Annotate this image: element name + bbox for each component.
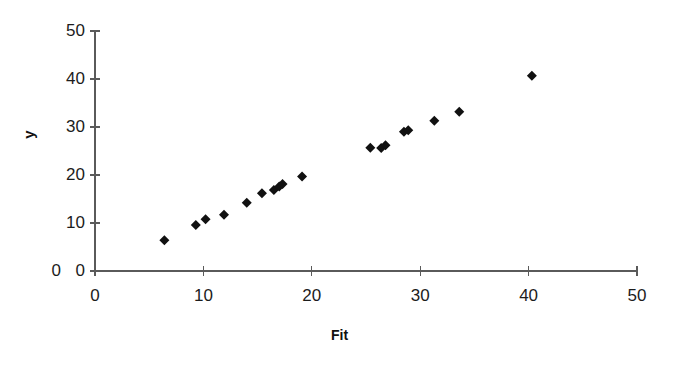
data-point-marker [257, 188, 267, 198]
x-tick-label: 50 [597, 287, 677, 304]
data-point-marker [365, 143, 375, 153]
y-tick-label: 20 [15, 166, 85, 183]
y-tick-label: 10 [15, 214, 85, 231]
data-point-marker [429, 116, 439, 126]
plot-area [0, 0, 679, 365]
x-tick-label: 20 [272, 287, 352, 304]
axes-group [95, 31, 637, 271]
data-point-marker [159, 235, 169, 245]
data-point-marker [454, 107, 464, 117]
x-tick-label: 10 [163, 287, 243, 304]
data-point-marker [242, 198, 252, 208]
scatter-plot-figure: y Fit 010203040500 01020304050 [0, 0, 679, 365]
data-point-markers [159, 71, 536, 246]
y-tick-label: 40 [15, 70, 85, 87]
data-point-marker [527, 71, 537, 81]
x-tick-label: 0 [55, 287, 135, 304]
x-tick-label: 40 [489, 287, 569, 304]
data-point-marker [191, 220, 201, 230]
y-tick-label: 30 [15, 118, 85, 135]
x-tick-label: 30 [380, 287, 460, 304]
duplicate-zero-label: 0 [0, 262, 61, 279]
data-point-marker [297, 171, 307, 181]
y-tick-label: 50 [15, 22, 85, 39]
data-point-marker [219, 210, 229, 220]
data-point-marker [201, 214, 211, 224]
